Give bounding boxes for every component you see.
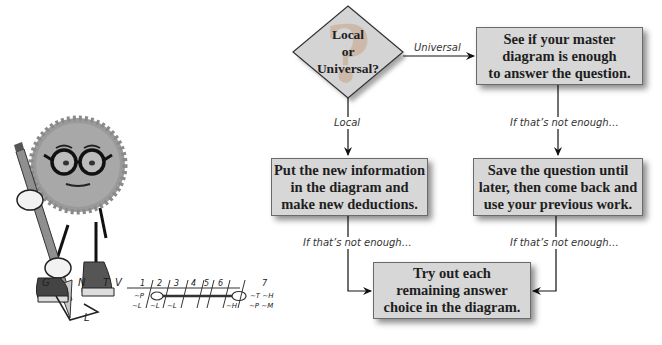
svg-text:~T ~H: ~T ~H <box>250 292 274 300</box>
svg-text:2: 2 <box>157 279 162 288</box>
svg-text:3: 3 <box>174 279 179 288</box>
svg-text:7: 7 <box>262 279 268 288</box>
glove-left <box>17 190 43 210</box>
svg-text:~L: ~L <box>132 302 142 310</box>
letter: V <box>115 277 123 288</box>
glove-right <box>45 258 71 278</box>
svg-text:~H: ~H <box>226 302 238 310</box>
svg-text:~P: ~P <box>134 292 145 300</box>
svg-text:~P ~M: ~P ~M <box>249 302 273 310</box>
svg-text:~L: ~L <box>167 302 177 310</box>
svg-text:1: 1 <box>140 279 145 288</box>
logic-grid: 1 2 3 4 5 6 7 ~P ~T ~H ~L ~L ~L ~H ~P ~M <box>127 279 274 310</box>
svg-text:5: 5 <box>204 279 209 288</box>
letter: N <box>78 277 86 288</box>
cartoon-character-illustration: G N T V L 1 2 3 4 5 6 7 ~P ~T ~H ~L ~L ~… <box>0 0 662 345</box>
letter: G <box>42 277 50 288</box>
svg-text:4: 4 <box>191 279 196 288</box>
letter: T <box>103 277 110 288</box>
fuzzy-head <box>31 118 125 212</box>
letter: L <box>84 312 90 323</box>
svg-text:6: 6 <box>218 279 223 288</box>
svg-text:~L: ~L <box>150 302 160 310</box>
